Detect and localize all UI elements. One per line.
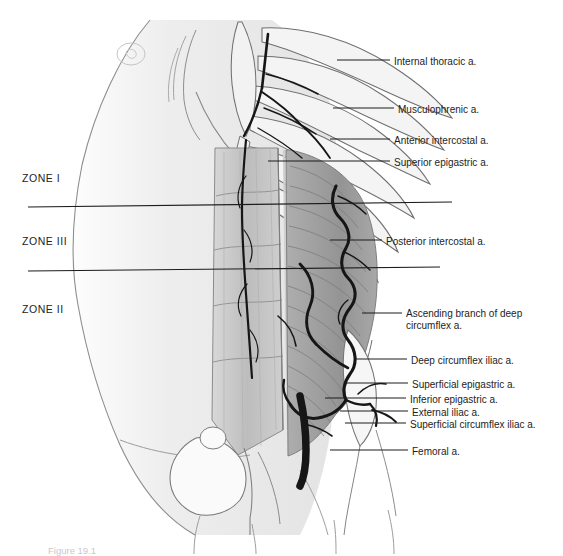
callout-anterior-intercostal: Anterior intercostal a. — [394, 135, 489, 147]
callout-superficial-circumflex-iliac: Superficial circumflex iliac a. — [410, 419, 536, 431]
callout-superficial-epigastric: Superficial epigastric a. — [412, 379, 515, 391]
callout-internal-thoracic: Internal thoracic a. — [394, 56, 476, 68]
callout-ascending-branch-deep-circumflex: Ascending branch of deep circumflex a. — [406, 308, 526, 331]
rectus-abdominis — [212, 148, 288, 455]
zone-label-i: ZONE I — [22, 172, 60, 184]
callout-superior-epigastric: Superior epigastric a. — [394, 157, 489, 169]
zone-label-ii: ZONE II — [22, 303, 64, 315]
figure-caption: Figure 19.1 — [48, 545, 96, 556]
callout-deep-circumflex-iliac: Deep circumflex iliac a. — [411, 355, 514, 367]
callout-femoral: Femoral a. — [412, 446, 460, 458]
callout-posterior-intercostal: Posterior intercostal a. — [386, 236, 486, 248]
callout-musculophrenic: Musculophrenic a. — [398, 104, 479, 116]
callout-inferior-epigastric: Inferior epigastric a. — [410, 394, 498, 406]
callout-external-iliac: External iliac a. — [412, 407, 480, 419]
zone-label-iii: ZONE III — [22, 235, 67, 247]
